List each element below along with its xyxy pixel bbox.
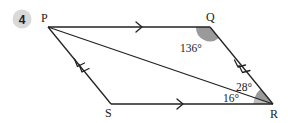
question-number: 4 <box>19 13 26 27</box>
angle-label-q: 136° <box>180 42 202 54</box>
geometry-question: 4 P Q R S 136° 28° 16° <box>0 0 288 123</box>
vertex-label-s: S <box>105 106 112 120</box>
vertex-label-q: Q <box>206 10 215 24</box>
question-number-badge: 4 <box>13 10 32 29</box>
vertex-label-p: P <box>41 11 48 25</box>
angle-label-prs: 16° <box>223 92 240 104</box>
vertex-label-r: R <box>270 107 278 121</box>
parallelogram-diagram: 4 P Q R S 136° 28° 16° <box>0 0 288 123</box>
